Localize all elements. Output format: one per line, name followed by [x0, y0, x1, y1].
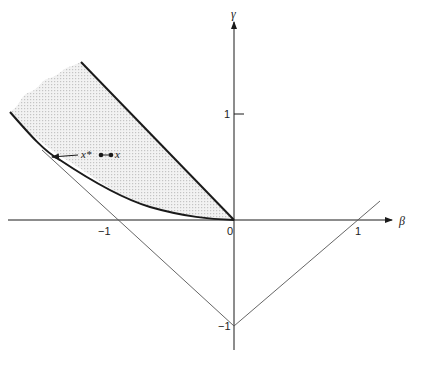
- point-dot-x: [109, 153, 114, 158]
- origin-label: 0: [227, 226, 233, 237]
- x-star-label: x*: [81, 149, 91, 160]
- y-tick-label-neg1: −1: [218, 321, 231, 332]
- point-dot-1: [99, 153, 104, 158]
- diagram-canvas: [0, 0, 426, 376]
- x-tick-label-neg1: −1: [98, 226, 111, 237]
- gamma-axis-label: γ: [231, 8, 236, 20]
- y-tick-label-1: 1: [224, 109, 230, 120]
- x-tick-label-1: 1: [355, 226, 361, 237]
- beta-axis-label: β: [399, 215, 405, 227]
- x-label: x: [115, 149, 120, 160]
